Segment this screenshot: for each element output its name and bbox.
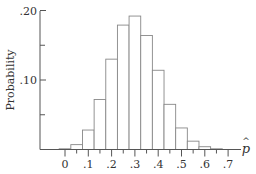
histogram-bar [129,16,141,149]
histogram-bar [176,128,188,150]
histogram-bar [117,25,129,149]
x-tick-label: 0 [62,158,69,171]
histogram-chart: .10.200.1.2.3.4.5.6.7 Probability p ^ [0,0,256,174]
x-tick-label: .1 [83,158,94,171]
histogram-bar [187,141,199,149]
y-axis-label: Probability [4,49,17,111]
y-tick-label: .20 [20,5,38,18]
x-tick-label: .3 [130,158,141,171]
x-tick-label: .7 [223,158,234,171]
histogram-bar [164,104,176,149]
histogram-bar [82,130,94,149]
x-tick-label: .2 [106,158,117,171]
x-tick-label: .6 [200,158,211,171]
y-tick-label: .10 [20,74,38,87]
histogram-bar [71,145,83,150]
bars [59,16,222,149]
histogram-bar [106,59,118,149]
histogram-bar [141,36,153,150]
histogram-bar [94,99,106,149]
x-axis-label-hat: ^ [242,136,250,146]
x-tick-label: .5 [176,158,187,171]
x-tick-label: .4 [153,158,164,171]
histogram-bar [152,70,164,149]
